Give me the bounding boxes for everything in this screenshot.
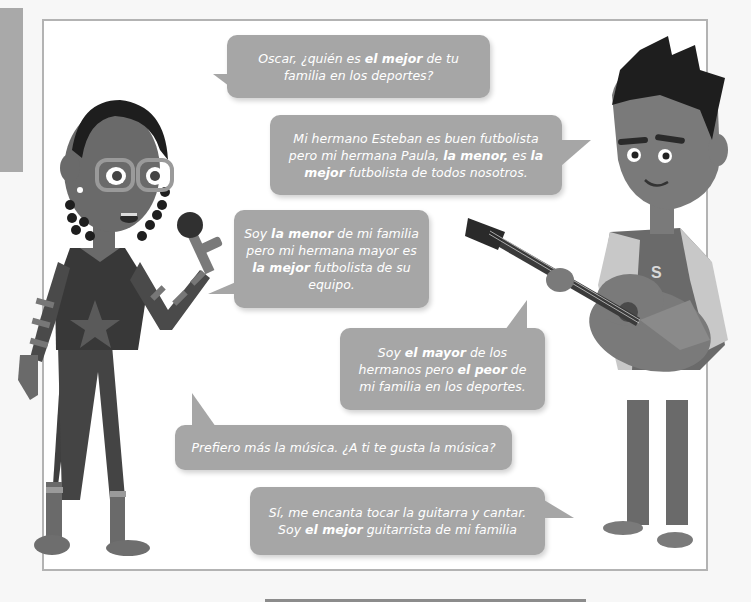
- bubble-tail-3: [208, 282, 236, 294]
- bubble-tail-5: [192, 393, 216, 427]
- speech-bubble-4: Soy el mayor de los hermanos pero el peo…: [340, 328, 545, 410]
- speech-bubble-3: Soy la menor de mi familia pero mi herma…: [234, 210, 429, 308]
- speech-bubble-2: Mi hermano Esteban es buen futbolista pe…: [270, 115, 562, 195]
- bubble-tail-1: [213, 74, 229, 86]
- speech-text-3: Soy la menor de mi familia pero mi herma…: [244, 225, 419, 293]
- speech-bubble-5: Prefiero más la música. ¿A ti te gusta l…: [175, 425, 512, 470]
- speech-text-4: Soy el mayor de los hermanos pero el peo…: [350, 344, 535, 395]
- speech-text-1: Oscar, ¿quién es el mejor de tu familia …: [237, 50, 480, 84]
- speech-bubble-6: Sí, me encanta tocar la guitarra y canta…: [250, 487, 545, 555]
- bubble-tail-6: [544, 500, 574, 518]
- jacket-letter: S: [651, 264, 662, 281]
- speech-text-5: Prefiero más la música. ¿A ti te gusta l…: [191, 439, 495, 456]
- bubble-tail-2: [561, 140, 591, 166]
- speech-text-2: Mi hermano Esteban es buen futbolista pe…: [280, 130, 552, 181]
- bubble-tail-4: [505, 300, 527, 330]
- speech-text-6: Sí, me encanta tocar la guitarra y canta…: [260, 504, 535, 538]
- speech-bubble-1: Oscar, ¿quién es el mejor de tu familia …: [227, 35, 490, 98]
